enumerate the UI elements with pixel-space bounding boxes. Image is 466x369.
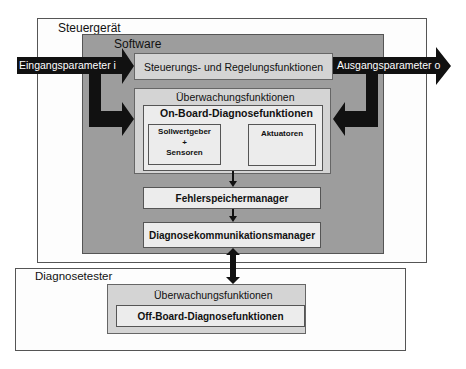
to-diagnosekomm-arrowhead-icon [229,216,237,222]
output-arrow-label: Ausgangsparameter o [337,59,440,71]
bidirectional-arrow-icon [226,248,240,284]
input-arrow-label: Eingangsparameter i [19,59,116,71]
input-branch-arrow-icon [89,74,134,136]
output-branch-arrow-icon [333,74,378,136]
to-fehlerspeicher-arrowhead-icon [229,181,237,187]
arrows-layer [0,0,466,369]
